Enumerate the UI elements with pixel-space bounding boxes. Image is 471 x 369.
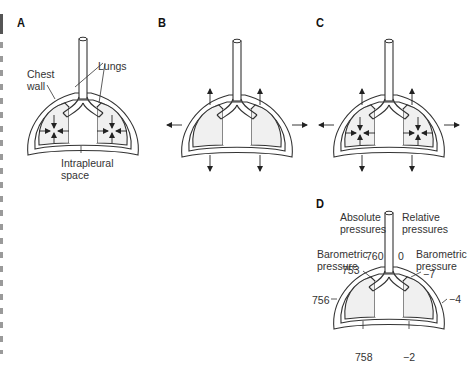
label-lungs: Lungs bbox=[98, 60, 127, 72]
panel-letter-c: C bbox=[316, 15, 324, 30]
label-chest-wall-line2: wall bbox=[27, 80, 45, 92]
label-barometric-right-line1: Barometric bbox=[416, 248, 467, 260]
value-relative-apex: −7 bbox=[423, 268, 435, 280]
panel-letter-b: B bbox=[158, 15, 166, 30]
value-absolute-apex: 753 bbox=[342, 264, 360, 276]
label-relative-line2: pressures bbox=[402, 223, 448, 235]
value-absolute-airway: 760 bbox=[366, 250, 384, 262]
label-intrapleural-line2: space bbox=[61, 169, 89, 181]
label-chest-wall-line1: Chest bbox=[27, 68, 54, 80]
label-intrapleural-line1: Intrapleural bbox=[61, 157, 114, 169]
label-absolute-line1: Absolute bbox=[340, 211, 381, 223]
value-relative-side: −4 bbox=[449, 293, 461, 305]
panel-b-thorax bbox=[167, 39, 307, 171]
panel-c-thorax bbox=[319, 39, 459, 171]
label-absolute-line2: pressures bbox=[340, 223, 386, 235]
lung-diagram-canvas bbox=[0, 0, 471, 369]
label-barometric-left-line1: Barometric bbox=[317, 248, 368, 260]
panel-a-thorax bbox=[28, 37, 139, 155]
value-relative-base: −2 bbox=[403, 351, 415, 363]
value-relative-airway: 0 bbox=[398, 250, 404, 262]
value-absolute-side: 756 bbox=[312, 294, 330, 306]
panel-letter-d: D bbox=[316, 196, 324, 211]
value-absolute-base: 758 bbox=[355, 351, 373, 363]
label-relative-line1: Relative bbox=[402, 211, 440, 223]
panel-letter-a: A bbox=[17, 15, 25, 30]
